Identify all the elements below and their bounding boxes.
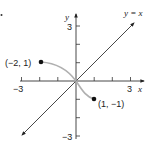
point-a-label: (−2, 1) — [5, 58, 31, 68]
x-max-label: 3 — [127, 84, 132, 94]
line-y-equals-x — [76, 23, 134, 81]
x-axis-label: x — [137, 84, 142, 94]
y-axis-label: y — [64, 12, 69, 22]
point-b-label: (1, −1) — [98, 99, 124, 109]
y-max-label: 3 — [67, 22, 72, 32]
y-min-label: −3 — [62, 132, 72, 142]
graph: y 3 −3 −3 3 x y = x (−2, 1) (1, −1) — [0, 0, 151, 142]
point-1-neg1 — [92, 97, 97, 102]
line-y-equals-x-lower — [22, 81, 76, 135]
x-min-label: −3 — [13, 84, 23, 94]
curve — [41, 62, 94, 99]
line-label: y = x — [123, 8, 143, 18]
marker-dot — [1, 14, 3, 16]
point-neg2-1 — [39, 60, 44, 65]
